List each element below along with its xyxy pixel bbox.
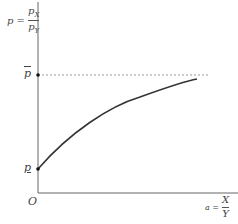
y-label-denominator-sub: Y — [35, 27, 40, 35]
origin-label: O — [28, 196, 37, 207]
y-axis-label: p = pX pY — [7, 6, 39, 36]
diagram-canvas: p = pX pY p p O a = X Y — [0, 0, 238, 224]
x-axis-label: a = X Y — [205, 195, 229, 219]
y-label-lhs: p = — [7, 15, 25, 26]
x-label-numerator: X — [222, 195, 229, 206]
curve — [38, 79, 197, 169]
lower-level-label: p — [24, 162, 31, 173]
upper-level-dot — [36, 73, 40, 77]
x-label-denominator: Y — [222, 209, 229, 220]
x-label-lhs: a = — [205, 203, 219, 212]
upper-level-label: p — [24, 68, 31, 79]
lower-level-dot — [36, 167, 40, 171]
y-label-numerator-sub: X — [34, 11, 39, 19]
